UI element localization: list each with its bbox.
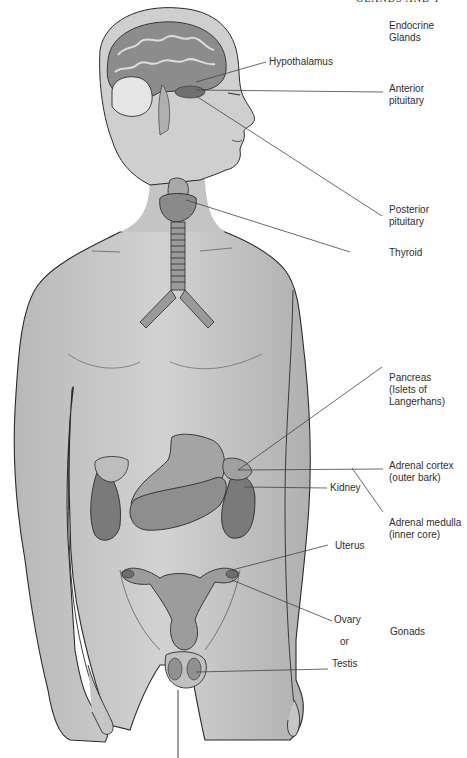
label-or: or — [340, 636, 349, 648]
label-endocrine-glands: Endocrine Glands — [389, 20, 434, 44]
label-kidney: Kidney — [330, 482, 361, 494]
head — [100, 8, 255, 222]
label-pancreas: Pancreas (Islets of Langerhans) — [389, 372, 445, 408]
label-posterior-pituitary: Posterior pituitary — [389, 204, 429, 228]
label-testis: Testis — [332, 658, 358, 670]
label-ovary: Ovary — [334, 614, 361, 626]
label-uterus: Uterus — [335, 540, 364, 552]
label-gonads: Gonads — [390, 626, 425, 638]
label-thyroid: Thyroid — [389, 247, 422, 259]
label-adrenal-cortex: Adrenal cortex (outer bark) — [389, 460, 453, 484]
body-silhouette — [14, 170, 310, 758]
label-adrenal-medulla: Adrenal medulla (inner core) — [389, 517, 461, 541]
label-anterior-pituitary: Anterior pituitary — [389, 83, 424, 107]
label-hypothalamus: Hypothalamus — [269, 56, 333, 68]
